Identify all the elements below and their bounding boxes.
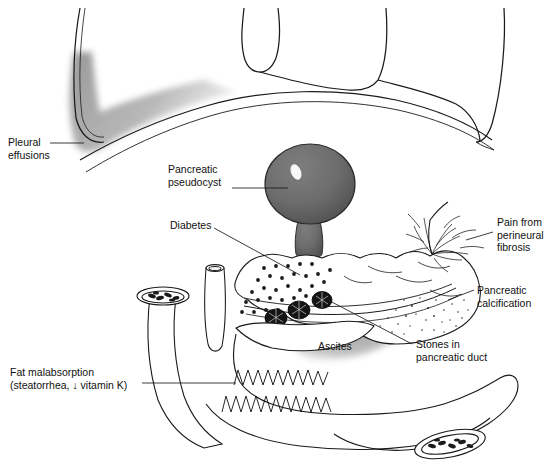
right-costophrenic-angle	[476, 142, 494, 150]
label-pancreatic-pseudocyst-line1: Pancreatic	[168, 163, 221, 176]
label-pancreatic-calcification: Pancreatic calcification	[477, 284, 531, 309]
label-pain-perineural-line2: perineural	[497, 229, 544, 242]
label-ascites-line1: Ascites	[318, 340, 352, 353]
label-pancreatic-calcification-line2: calcification	[477, 297, 531, 310]
right-chest-wall	[378, 80, 480, 140]
valvulae-conniventes-lower	[222, 396, 331, 412]
valvulae-conniventes-upper	[234, 370, 328, 385]
pseudocyst-body	[265, 144, 355, 224]
label-fat-malabsorption-line1: Fat malabsorption	[10, 366, 127, 379]
label-stones-duct-line1: Stones in	[416, 338, 487, 351]
label-stones-duct-line2: pancreatic duct	[416, 351, 487, 364]
illustration-canvas	[0, 0, 551, 467]
right-costal-inner	[378, 8, 387, 80]
label-pleural-effusions: Pleural effusions	[8, 136, 50, 161]
label-pain-perineural-line1: Pain from	[497, 216, 544, 229]
label-stones-pancreatic-duct: Stones in pancreatic duct	[416, 338, 487, 363]
label-diabetes: Diabetes	[170, 219, 211, 232]
chronic-pancreatitis-figure: Pleural effusions Pancreatic pseudocyst …	[0, 0, 551, 467]
label-pancreatic-pseudocyst-line2: pseudocyst	[168, 176, 221, 189]
label-diabetes-line1: Diabetes	[170, 219, 211, 232]
thorax-diaphragm-group	[70, 8, 505, 172]
leader-pain-perineural	[466, 232, 493, 240]
right-chest-wall-outer	[476, 8, 505, 142]
stone-2	[288, 301, 310, 319]
right-costal-arch-upper	[260, 72, 378, 90]
sternum-left-border	[242, 8, 260, 72]
common-duct-stump-group	[205, 265, 226, 351]
label-pain-perineural-fibrosis: Pain from perineural fibrosis	[497, 216, 544, 254]
pancreatic-pseudocyst-group	[265, 144, 355, 260]
duct-stump-wall	[205, 268, 226, 351]
label-pancreatic-pseudocyst: Pancreatic pseudocyst	[168, 163, 221, 188]
label-pain-perineural-line3: fibrosis	[497, 241, 544, 254]
label-fat-malabsorption: Fat malabsorption (steatorrhea, ↓ vitami…	[10, 366, 127, 391]
xiphoid-notch	[260, 8, 280, 72]
stone-3	[312, 292, 332, 309]
label-ascites: Ascites	[318, 340, 352, 353]
label-pancreatic-calcification-line1: Pancreatic	[477, 284, 531, 297]
label-pleural-effusions-line2: effusions	[8, 149, 50, 162]
label-fat-malabsorption-line2: (steatorrhea, ↓ vitamin K)	[10, 379, 127, 392]
duct-stump-lumen	[209, 267, 221, 271]
label-pleural-effusions-line1: Pleural	[8, 136, 50, 149]
